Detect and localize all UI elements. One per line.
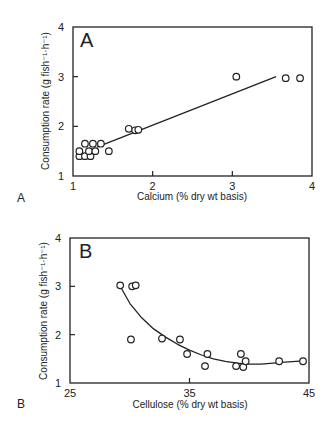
panel-a-data-point	[135, 127, 142, 134]
panel-b-x-tick-label: 25	[64, 387, 76, 399]
panel-a-data-point	[82, 140, 89, 147]
figure-label-b: B	[17, 397, 25, 411]
panel-b-label: B	[79, 240, 92, 262]
panel-b-data-point	[204, 351, 211, 358]
panel-b-x-axis-label: Cellulose (% dry wt basis)	[132, 399, 247, 410]
panel-b-y-tick-label: 3	[55, 280, 61, 292]
panel-b-y-tick-label: 1	[55, 377, 61, 389]
panel-a-data-point	[90, 140, 97, 147]
panel-a-data-point	[92, 148, 99, 155]
panel-a-x-axis-label: Calcium (% dry wt basis)	[137, 191, 247, 202]
panel-b-data-point	[242, 358, 249, 365]
panel-b-data-point	[159, 335, 166, 342]
panel-a-y-tick-label: 3	[58, 71, 64, 83]
panel-a-data-point	[98, 140, 105, 147]
panel-b-y-tick-label: 4	[55, 232, 61, 244]
panel-b-data-point	[300, 358, 307, 365]
panel-b-chart: 2535451234 B Cellulose (% dry wt basis) …	[17, 232, 315, 411]
panel-b-y-tick-label: 2	[55, 329, 61, 341]
panel-a-y-tick-label: 4	[58, 21, 64, 33]
panel-b-data-point	[128, 336, 135, 343]
panel-a-data-point	[297, 75, 304, 82]
figure: 12341234 A Calcium (% dry wt basis) Cons…	[0, 0, 333, 427]
panel-a-label: A	[80, 29, 94, 51]
panel-a-data-point	[282, 75, 289, 82]
panel-a-data-point	[76, 148, 83, 155]
panel-b-x-tick-label: 45	[303, 387, 315, 399]
panel-a-y-tick-label: 2	[58, 120, 64, 132]
panel-a-x-tick-label: 4	[309, 180, 315, 192]
panel-a-data-point	[125, 126, 132, 133]
panel-b-fit-line	[120, 286, 303, 364]
panel-a-fit-line	[97, 77, 276, 148]
panel-b-data-point	[184, 351, 191, 358]
panel-b-x-tick-label: 35	[183, 387, 195, 399]
panel-b-data-point	[132, 282, 139, 289]
panel-a-y-tick-label: 1	[58, 170, 64, 182]
panel-a-x-tick-label: 1	[70, 180, 76, 192]
panel-b-data-point	[233, 363, 240, 370]
panel-b-y-axis-label: Consumption rate (g fish⁻¹·h⁻¹)	[38, 242, 49, 380]
panel-b-data-point	[238, 351, 245, 358]
panel-a-data-point	[106, 148, 113, 155]
panel-b-data-point	[202, 363, 209, 370]
panel-a-data-point	[233, 73, 240, 80]
panel-b-frame	[70, 238, 309, 383]
panel-b-data-point	[276, 358, 283, 365]
panel-a-chart: 12341234 A Calcium (% dry wt basis) Cons…	[17, 21, 315, 205]
figure-label-a: A	[17, 191, 25, 205]
panel-a-y-axis-label: Consumption rate (g fish⁻¹·h⁻¹)	[40, 32, 51, 170]
panel-b-data-point	[177, 336, 184, 343]
panel-b-data-point	[117, 282, 124, 289]
panel-a-data-point	[86, 148, 93, 155]
